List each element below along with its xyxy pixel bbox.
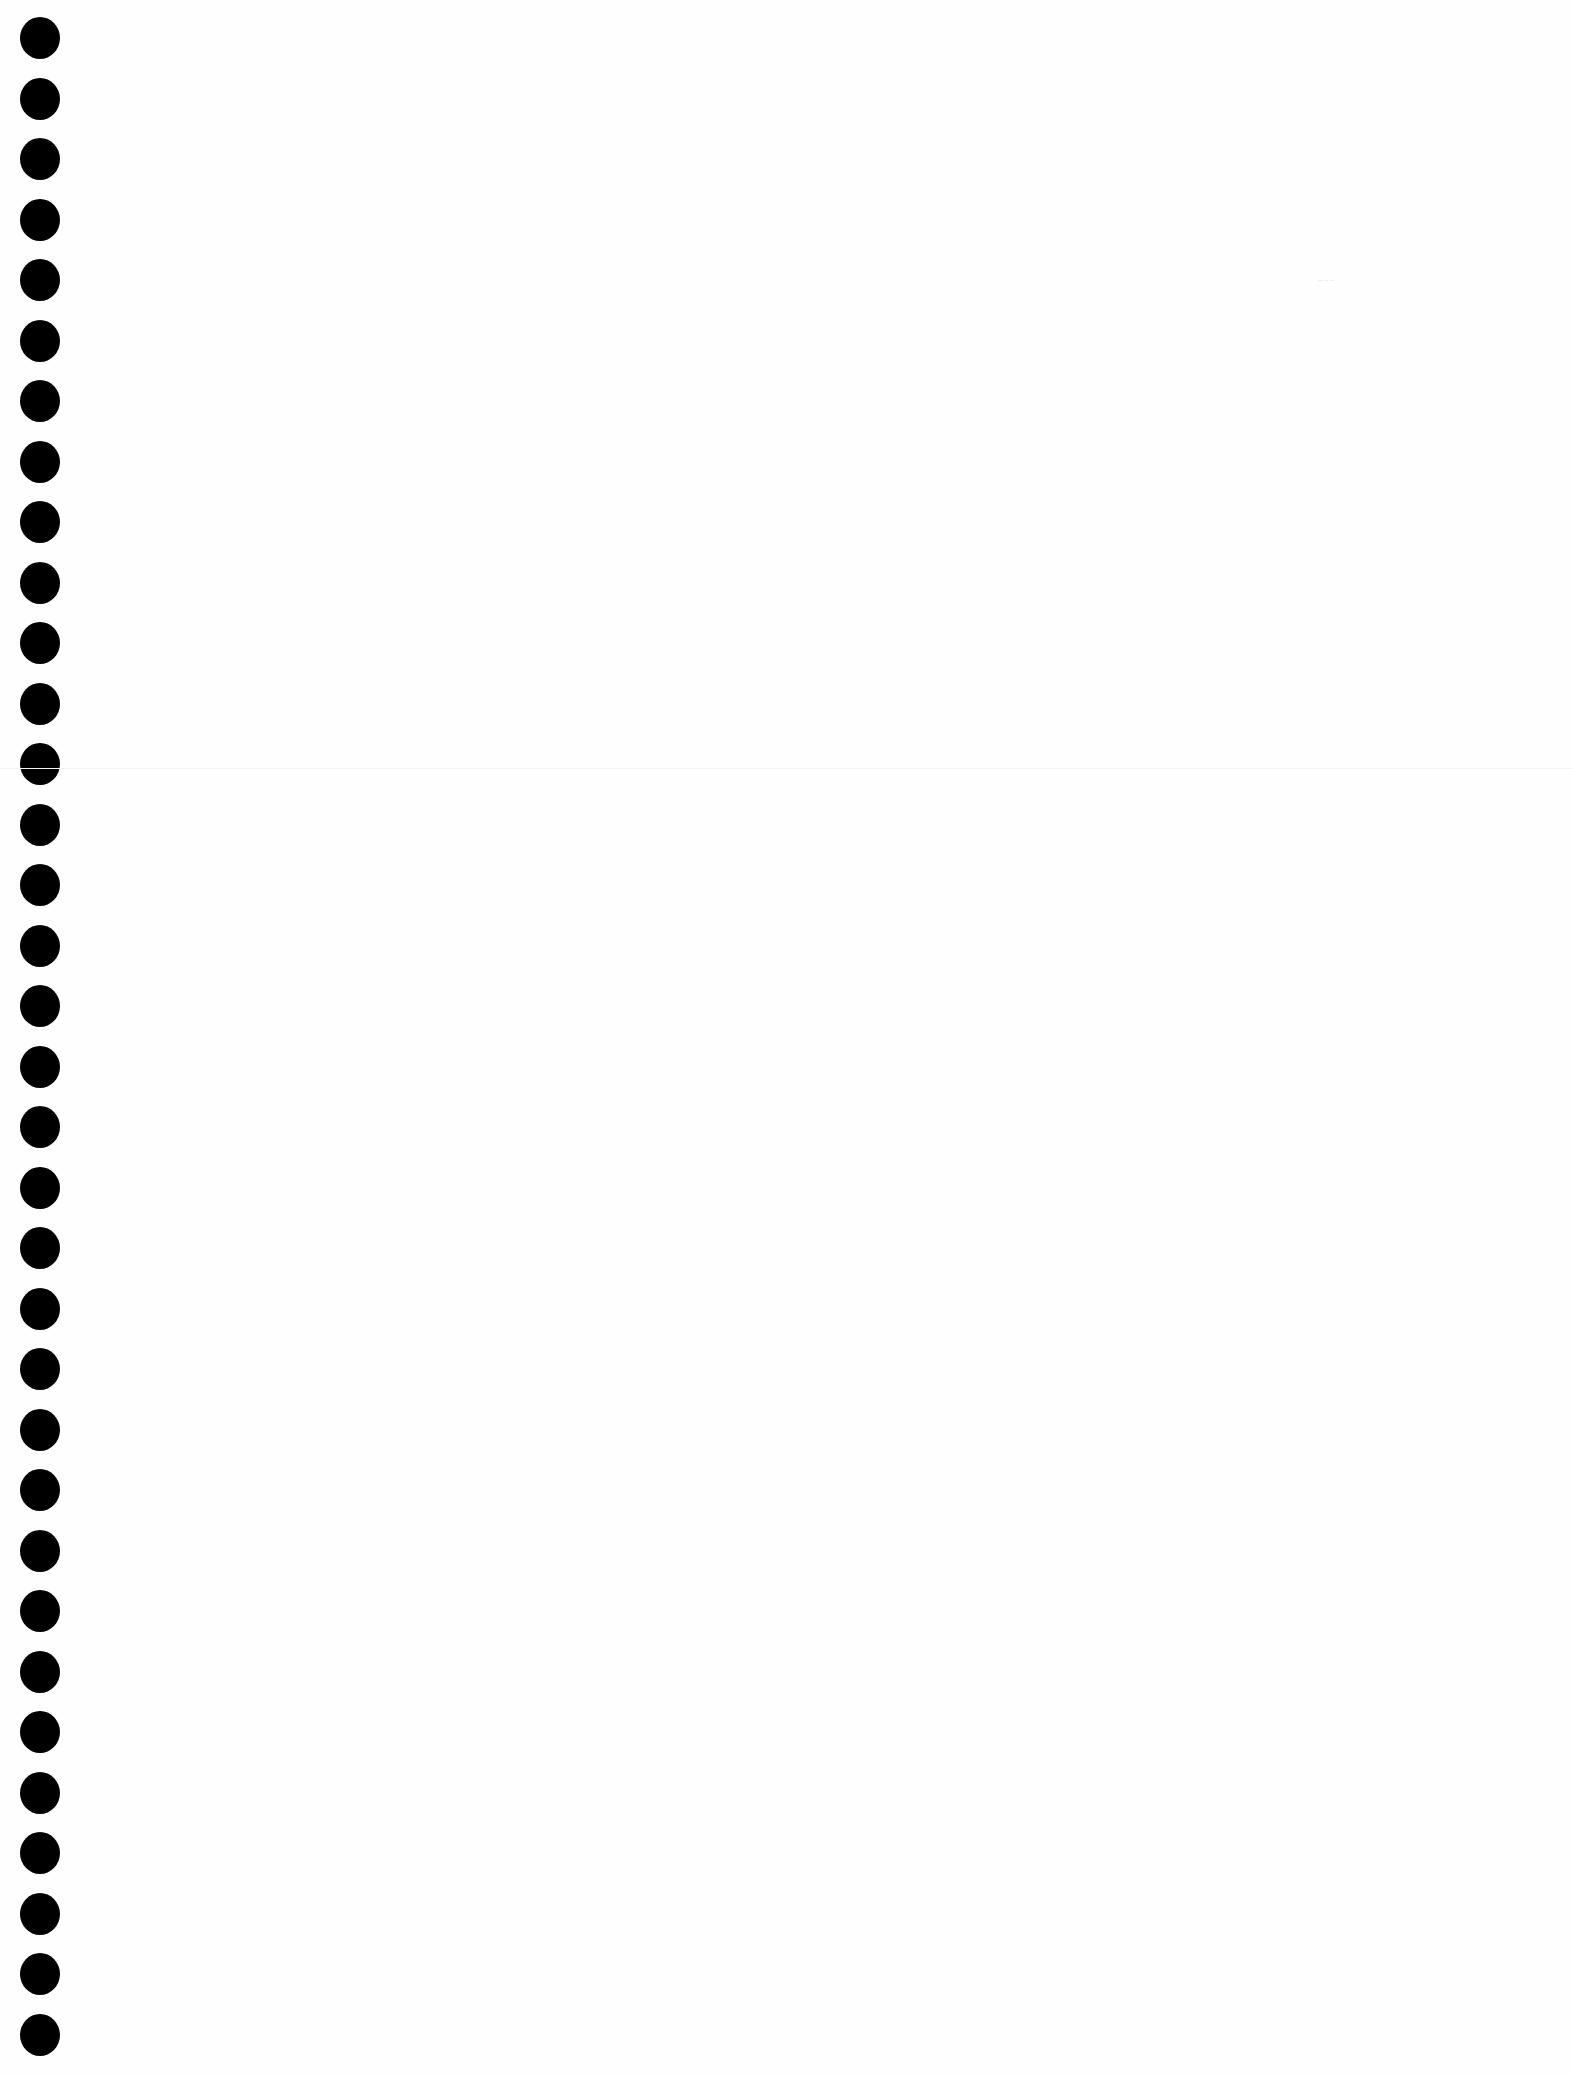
punch-hole — [20, 1106, 60, 1148]
punch-hole — [20, 78, 60, 120]
punch-hole — [20, 501, 60, 543]
punch-hole — [20, 1348, 60, 1390]
punch-hole — [20, 441, 60, 483]
punch-hole — [20, 17, 60, 59]
punch-hole — [20, 864, 60, 906]
punch-hole — [20, 380, 60, 422]
punch-hole — [20, 1227, 60, 1269]
punch-hole — [20, 1409, 60, 1451]
fold-line — [0, 768, 1572, 769]
punch-hole — [20, 622, 60, 664]
punch-hole — [20, 138, 60, 180]
punch-hole — [20, 259, 60, 301]
punch-hole — [20, 199, 60, 241]
punch-hole — [20, 985, 60, 1027]
punch-hole — [20, 1046, 60, 1088]
punch-hole — [20, 2014, 60, 2056]
blank-page: ~~~ — [0, 0, 1572, 2074]
punch-hole-strip — [0, 0, 80, 2074]
punch-hole — [20, 1772, 60, 1814]
punch-hole — [20, 1832, 60, 1874]
punch-hole — [20, 743, 60, 785]
punch-hole — [20, 804, 60, 846]
punch-hole — [20, 925, 60, 967]
punch-hole — [20, 1469, 60, 1511]
punch-hole — [20, 683, 60, 725]
punch-hole — [20, 1590, 60, 1632]
punch-hole — [20, 1893, 60, 1935]
punch-hole — [20, 1651, 60, 1693]
punch-hole — [20, 320, 60, 362]
punch-hole — [20, 1288, 60, 1330]
punch-hole — [20, 562, 60, 604]
punch-hole — [20, 1530, 60, 1572]
punch-hole — [20, 1711, 60, 1753]
punch-hole — [20, 1167, 60, 1209]
punch-hole — [20, 1953, 60, 1995]
scan-smudge: ~~~ — [1318, 278, 1366, 284]
